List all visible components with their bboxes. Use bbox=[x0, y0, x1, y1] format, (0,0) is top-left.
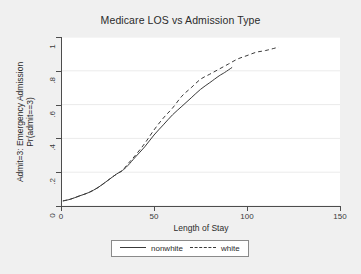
x-tick-mark bbox=[340, 207, 341, 211]
legend-entry-nonwhite: nonwhite bbox=[120, 244, 183, 253]
x-tick-label: 150 bbox=[328, 212, 352, 221]
y-tick-label: .4 bbox=[48, 138, 57, 158]
y-tick-mark bbox=[56, 71, 61, 72]
y-tick-mark bbox=[56, 37, 61, 38]
chart-legend: nonwhitewhite bbox=[111, 240, 249, 257]
plot-area bbox=[61, 37, 340, 206]
x-tick-mark bbox=[154, 207, 155, 211]
legend-line-icon bbox=[120, 247, 146, 250]
x-tick-mark bbox=[61, 207, 62, 211]
y-tick-label: 1 bbox=[48, 37, 57, 57]
y-tick-mark bbox=[56, 138, 61, 139]
y-axis-title: Admit=3: Emergency Admission Pr(admit==3… bbox=[14, 37, 40, 206]
x-tick-label: 50 bbox=[142, 212, 166, 221]
y-tick-label: .6 bbox=[48, 104, 57, 124]
legend-label: white bbox=[221, 244, 240, 253]
y-tick-mark bbox=[56, 105, 61, 106]
y-tick-label: .2 bbox=[48, 172, 57, 192]
y-axis-line bbox=[61, 37, 62, 206]
legend-label: nonwhite bbox=[151, 244, 183, 253]
legend-entry-white: white bbox=[190, 244, 240, 253]
x-tick-label: 100 bbox=[235, 212, 259, 221]
y-tick-label: .8 bbox=[48, 70, 57, 90]
x-axis-line bbox=[61, 206, 341, 207]
chart-title: Medicare LOS vs Admission Type bbox=[0, 14, 361, 26]
chart-figure: Medicare LOS vs Admission Type 0.2.4.6.8… bbox=[0, 0, 361, 274]
y-tick-mark bbox=[56, 172, 61, 173]
series-line-white bbox=[63, 47, 279, 201]
data-curves bbox=[61, 37, 340, 206]
x-tick-label: 0 bbox=[49, 212, 73, 221]
legend-line-icon bbox=[190, 247, 216, 250]
series-line-nonwhite bbox=[63, 67, 232, 201]
x-tick-mark bbox=[247, 207, 248, 211]
y-axis-title-line-2: Pr(admit==3) bbox=[25, 97, 35, 147]
x-axis-title: Length of Stay bbox=[61, 223, 341, 233]
y-axis-title-line-1: Admit=3: Emergency Admission bbox=[15, 61, 25, 181]
